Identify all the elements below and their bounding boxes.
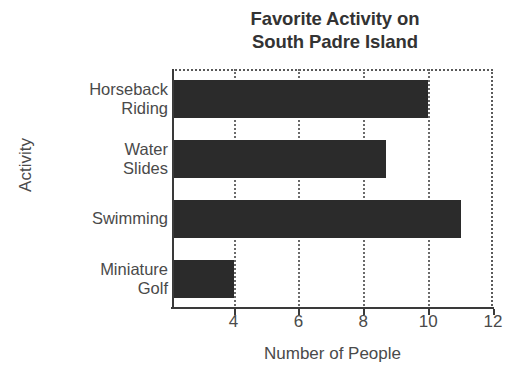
x-tick-label-8: 8	[340, 312, 386, 332]
y-tick-label: Miniature Golf	[40, 260, 168, 298]
y-axis-tick-labels: Horseback RidingWater SlidesSwimmingMini…	[40, 69, 168, 309]
gridline-10	[428, 69, 430, 309]
x-tick-label-4: 4	[211, 312, 257, 332]
y-tick-label: Water Slides	[40, 140, 168, 178]
x-tick-label-6: 6	[275, 312, 321, 332]
bar	[172, 140, 386, 178]
y-tick-label: Horseback Riding	[40, 80, 168, 118]
x-axis-title: Number of People	[172, 344, 493, 364]
bar	[172, 200, 461, 238]
plot-border-right	[491, 69, 493, 309]
x-tick-label-12: 12	[470, 312, 516, 332]
y-axis-title: Activity	[16, 120, 36, 210]
x-axis-line	[171, 307, 494, 309]
x-tick-label-10: 10	[405, 312, 451, 332]
y-axis-line	[172, 69, 174, 309]
bar	[172, 260, 234, 298]
x-axis-tick-labels: 4681012	[172, 312, 502, 338]
y-tick-label: Swimming	[40, 209, 168, 228]
chart-title: Favorite Activity on South Padre Island	[190, 8, 480, 53]
plot-area	[172, 69, 493, 309]
bar	[172, 80, 428, 118]
bar-chart-figure: Favorite Activity on South Padre Island …	[0, 0, 529, 381]
plot-border-top	[172, 69, 493, 71]
